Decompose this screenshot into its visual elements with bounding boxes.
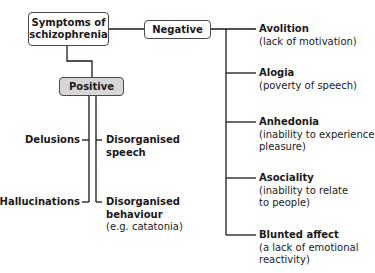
positive-item-disorganised-speech: Disorganised speech — [106, 134, 180, 159]
root-label-line2: schizophrenia — [29, 29, 107, 41]
negative-item-anhedonia: Anhedonia (inability to experience pleas… — [259, 116, 375, 154]
positive-node-box: Positive — [59, 77, 124, 96]
positive-item-delusions: Delusions — [25, 134, 80, 147]
positive-item-hallucinations: Hallucinations — [0, 196, 80, 209]
negative-item-avolition: Avolition (lack of motivation) — [259, 23, 357, 48]
negative-label: Negative — [152, 24, 203, 36]
negative-item-alogia: Alogia (poverty of speech) — [259, 67, 357, 92]
positive-label: Positive — [69, 81, 114, 93]
negative-node-box: Negative — [144, 20, 211, 39]
root-node-box: Symptoms of schizophrenia — [28, 12, 109, 46]
root-label-line1: Symptoms of — [31, 17, 105, 29]
positive-item-disorganised-behaviour: Disorganised behaviour (e.g. catatonia) — [106, 196, 183, 234]
negative-item-blunted-affect: Blunted affect (a lack of emotional reac… — [259, 229, 358, 267]
negative-item-asociality: Asociality (inability to relate to peopl… — [259, 172, 348, 210]
